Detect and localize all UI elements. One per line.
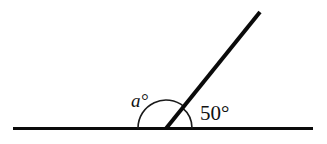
unknown-angle-label: a° [131,90,149,111]
figure-background [0,0,327,144]
angle-diagram-svg: Angle on a straight line diagram a° 50° [0,0,327,144]
known-angle-label: 50° [200,101,229,125]
angle-diagram-figure: Angle on a straight line diagram a° 50° [0,0,327,144]
